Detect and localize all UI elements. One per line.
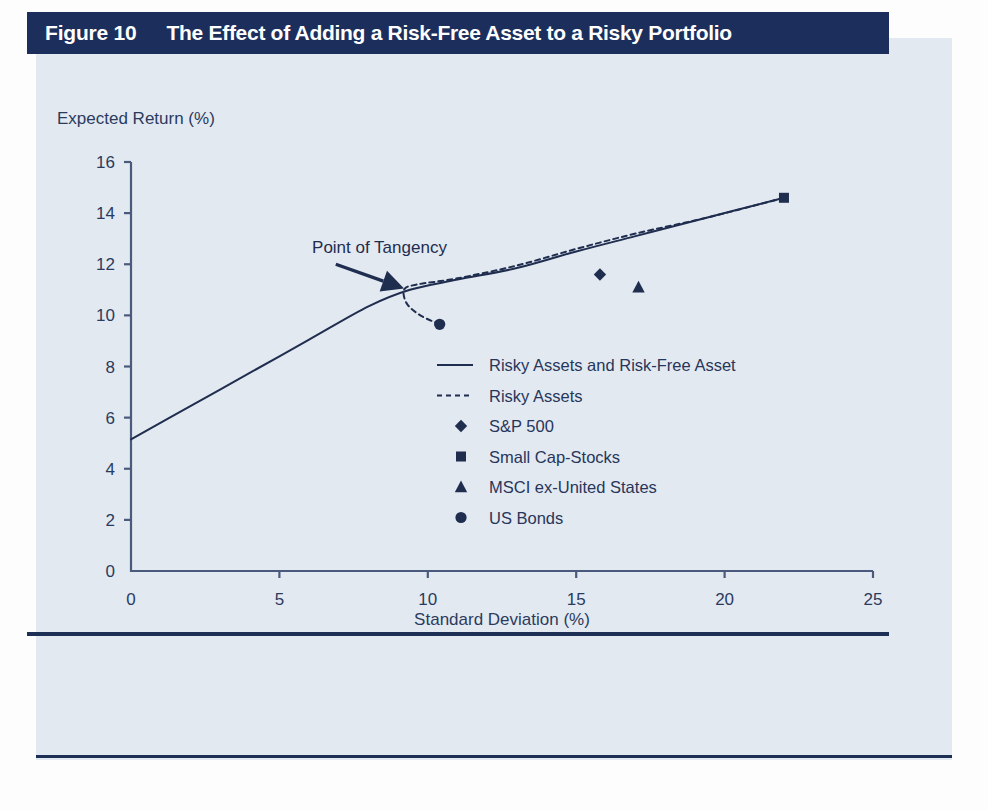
legend-glyph-circle: [455, 512, 466, 523]
x-tick-label: 25: [864, 590, 883, 609]
x-tick-label: 10: [418, 590, 437, 609]
data-point-marker: [632, 281, 644, 293]
y-tick-label: 16: [96, 153, 115, 172]
x-tick-label: 0: [126, 590, 135, 609]
legend-item-label: MSCI ex-United States: [489, 478, 657, 496]
y-tick-label: 0: [106, 562, 115, 581]
panel-bottom-rule: [36, 755, 952, 758]
x-axis-label: Standard Deviation (%): [414, 610, 590, 629]
y-tick-label: 14: [96, 204, 115, 223]
series-line: [131, 198, 784, 440]
legend-item-label: S&P 500: [489, 417, 554, 435]
x-tick-label: 15: [567, 590, 586, 609]
y-tick-label: 8: [106, 358, 115, 377]
data-point-marker: [594, 268, 606, 280]
legend-item-label: Risky Assets and Risk-Free Asset: [489, 356, 736, 374]
y-tick-label: 10: [96, 306, 115, 325]
panel-divider-rule: [27, 632, 889, 636]
legend-glyph-square: [456, 452, 466, 462]
figure-number: Figure 10: [45, 21, 137, 45]
legend-glyph-diamond: [455, 420, 467, 432]
legend-item-label: Small Cap-Stocks: [489, 448, 620, 466]
figure-title: The Effect of Adding a Risk-Free Asset t…: [167, 21, 732, 45]
annotation-label: Point of Tangency: [312, 238, 447, 257]
annotation-arrow-shaft: [336, 264, 384, 281]
risk-return-chart: Expected Return (%)Standard Deviation (%…: [27, 60, 897, 630]
figure-header: Figure 10 The Effect of Adding a Risk-Fr…: [27, 12, 889, 54]
data-point-marker: [434, 319, 445, 330]
data-point-marker: [779, 193, 789, 203]
y-tick-label: 2: [106, 511, 115, 530]
y-axis-label: Expected Return (%): [57, 109, 215, 128]
y-tick-label: 6: [106, 409, 115, 428]
legend-item-label: Risky Assets: [489, 387, 583, 405]
figure-screenshot: Figure 10 The Effect of Adding a Risk-Fr…: [0, 0, 988, 810]
y-tick-label: 12: [96, 255, 115, 274]
y-tick-label: 4: [106, 460, 115, 479]
x-tick-label: 5: [275, 590, 284, 609]
series-line: [404, 198, 784, 325]
legend-glyph-triangle: [455, 481, 467, 493]
x-tick-label: 20: [715, 590, 734, 609]
chart-container: Expected Return (%)Standard Deviation (%…: [27, 60, 897, 630]
legend-item-label: US Bonds: [489, 509, 563, 527]
